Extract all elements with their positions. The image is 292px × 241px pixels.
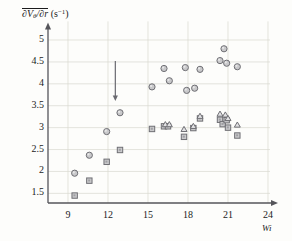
marker-circle (117, 110, 123, 116)
y-tick-label: 1.5 (18, 186, 44, 197)
y-tick-label: 5 (18, 33, 44, 44)
gridlines (48, 21, 270, 203)
marker-square-core (88, 179, 90, 181)
marker-highlight (218, 59, 220, 61)
series-square (72, 116, 240, 199)
marker-highlight (87, 153, 89, 155)
marker-highlight (235, 65, 237, 67)
marker-circle (166, 78, 172, 84)
figure-container: ∂Vθ/∂r (s−1) 1.522.533.544.55 9121518212… (0, 0, 292, 241)
marker-square (72, 193, 77, 198)
y-tick-label: 4 (18, 77, 44, 88)
marker-circle (221, 46, 227, 52)
x-tick-label: 15 (137, 209, 159, 220)
annotation-layer (113, 61, 118, 101)
marker-triangle-shape (181, 126, 187, 131)
marker-circle-shape (166, 78, 172, 84)
marker-square-core (227, 126, 229, 128)
marker-highlight (183, 66, 185, 68)
x-axis-label: Wi (262, 223, 272, 233)
marker-circle (86, 152, 92, 158)
marker-square (235, 133, 240, 138)
marker-circle-shape (104, 128, 110, 134)
marker-highlight (198, 67, 200, 69)
marker-highlight (193, 86, 195, 88)
marker-triangle (217, 111, 223, 116)
marker-square-core (183, 136, 185, 138)
marker-circle-shape (182, 65, 188, 71)
y-tick-label: 3.5 (18, 99, 44, 110)
marker-circle-shape (72, 170, 78, 176)
x-tick-label: 21 (217, 209, 239, 220)
marker-circle-shape (161, 65, 167, 71)
marker-square (149, 126, 154, 131)
marker-square-core (151, 128, 153, 130)
x-axis-arrowhead (271, 200, 278, 206)
marker-highlight (222, 47, 224, 49)
marker-circle (217, 57, 223, 63)
marker-square-core (73, 194, 75, 196)
annotation-arrow-head (113, 96, 118, 102)
marker-highlight (118, 111, 120, 113)
marker-circle-shape (221, 46, 227, 52)
marker-triangle-shape (234, 122, 240, 127)
plot-area: ∂Vθ/∂r (s−1) 1.522.533.544.55 9121518212… (0, 0, 292, 241)
x-tick-label: 18 (177, 209, 199, 220)
marker-circle (192, 85, 198, 91)
marker-circle-shape (192, 85, 198, 91)
marker-circle (72, 170, 78, 176)
marker-triangle (234, 122, 240, 127)
y-axis-arrowhead (45, 22, 51, 29)
marker-square-core (105, 161, 107, 163)
marker-circle-shape (197, 66, 203, 72)
marker-circle (161, 65, 167, 71)
marker-square (181, 134, 186, 139)
marker-square (117, 147, 122, 152)
marker-circle-shape (217, 57, 223, 63)
marker-circle-shape (184, 87, 190, 93)
marker-circle-shape (224, 60, 230, 66)
marker-square (225, 125, 230, 130)
y-tick-label: 2 (18, 164, 44, 175)
marker-highlight (185, 88, 187, 90)
marker-square (104, 159, 109, 164)
marker-triangle (181, 126, 187, 131)
marker-circle-shape (149, 84, 155, 90)
marker-circle (224, 60, 230, 66)
marker-circle-shape (117, 110, 123, 116)
marker-circle-shape (234, 64, 240, 70)
marker-circle (182, 65, 188, 71)
data-markers (72, 46, 241, 199)
x-tick-label: 24 (257, 209, 279, 220)
series-circle (72, 46, 241, 177)
marker-circle (234, 64, 240, 70)
marker-highlight (73, 171, 75, 173)
x-tick-label: 12 (97, 209, 119, 220)
marker-highlight (150, 85, 152, 87)
axes (45, 22, 278, 206)
marker-circle-shape (86, 152, 92, 158)
y-tick-label: 4.5 (18, 55, 44, 66)
marker-highlight (162, 66, 164, 68)
marker-highlight (167, 79, 169, 81)
marker-circle (197, 66, 203, 72)
x-tick-label: 9 (57, 209, 79, 220)
marker-square-core (221, 123, 223, 125)
marker-square-core (219, 119, 221, 121)
marker-highlight (225, 61, 227, 63)
marker-circle (184, 87, 190, 93)
marker-highlight (105, 130, 107, 132)
marker-circle (149, 84, 155, 90)
y-tick-label: 3 (18, 121, 44, 132)
marker-square-core (119, 149, 121, 151)
y-tick-label: 2.5 (18, 143, 44, 154)
marker-square-core (236, 134, 238, 136)
marker-triangle-shape (217, 111, 223, 116)
marker-circle (104, 128, 110, 134)
marker-square (87, 178, 92, 183)
